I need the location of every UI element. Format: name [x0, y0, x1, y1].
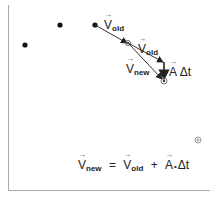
- label-v-old-1: Vold: [104, 19, 124, 33]
- trajectory-point-2: [57, 22, 62, 27]
- v-subscript: old: [112, 24, 124, 33]
- v-subscript: new: [134, 68, 150, 77]
- eq-plus: +: [151, 158, 158, 172]
- eq-term1-subscript: old: [131, 164, 143, 173]
- eq-lhs-symbol: V: [78, 158, 86, 172]
- v-symbol: V: [126, 63, 134, 75]
- v-symbol: V: [104, 19, 112, 31]
- v-subscript: old: [146, 48, 158, 57]
- label-v-old-2: Vold: [138, 43, 158, 57]
- new-position-point-center: [163, 80, 165, 82]
- eq-delta-t: Δt: [178, 158, 189, 172]
- eq-term1-symbol: V: [123, 158, 131, 172]
- eq-equals: =: [109, 158, 116, 172]
- v-symbol: V: [138, 43, 146, 55]
- trajectory-point-1: [22, 42, 27, 47]
- diagram-canvas: Vold Vold Vnew A Δt Vnew = Vold + A•Δt: [0, 0, 219, 210]
- label-a-dt: A Δt: [169, 66, 191, 78]
- label-v-new: Vnew: [126, 63, 150, 77]
- eq-dot: •: [174, 162, 177, 171]
- eq-lhs-subscript: new: [86, 164, 102, 173]
- velocity-equation: Vnew = Vold + A•Δt: [78, 158, 189, 173]
- delta-t-text: Δt: [177, 65, 191, 79]
- a-symbol: A: [169, 66, 177, 78]
- eq-term2-symbol: A: [165, 158, 173, 172]
